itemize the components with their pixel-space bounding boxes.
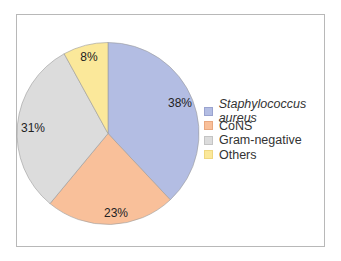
slice-label-others: 8% xyxy=(80,50,97,64)
legend-item-others: Others xyxy=(204,148,341,163)
slice-label-cons: 23% xyxy=(104,206,128,220)
slice-label-staph-aureus: 38% xyxy=(168,96,192,110)
legend: Staphylococcus aureus CoNS Gram-negative… xyxy=(204,104,341,162)
legend-swatch xyxy=(204,121,213,130)
legend-swatch xyxy=(204,107,213,116)
legend-swatch xyxy=(204,136,213,145)
legend-label: Gram-negative xyxy=(219,133,302,147)
legend-item-staph-aureus: Staphylococcus aureus xyxy=(204,104,341,119)
legend-swatch xyxy=(204,150,213,159)
legend-item-gram-negative: Gram-negative xyxy=(204,133,341,148)
legend-label: Others xyxy=(219,148,257,162)
legend-label: CoNS xyxy=(219,119,252,133)
slice-label-gram-negative: 31% xyxy=(21,121,45,135)
